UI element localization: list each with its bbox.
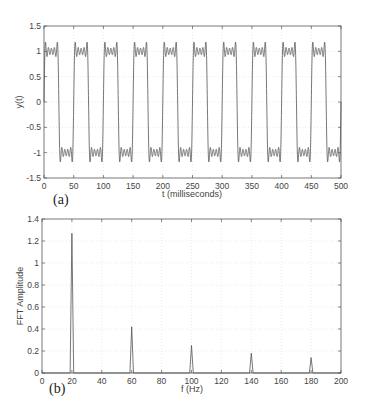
y-tick-label: 1: [36, 46, 41, 56]
x-tick-label: 160: [274, 376, 288, 386]
x-tick-label: 180: [304, 376, 318, 386]
x-tick-label: 400: [275, 181, 289, 191]
y-tick-label: 0.4: [27, 324, 39, 334]
y-tick-label: -0.5: [26, 122, 41, 132]
x-tick-label: 140: [244, 376, 258, 386]
chart-a-time-domain: 050100150200250300350400450500-1.5-1-0.5…: [14, 21, 348, 208]
chart-a-ylabel: y(t): [14, 96, 24, 109]
x-tick-label: 150: [126, 181, 140, 191]
x-tick-label: 60: [127, 376, 137, 386]
y-tick-label: 0.5: [29, 72, 41, 82]
chart-b-panel-label: (b): [49, 381, 66, 397]
y-tick-label: 0.8: [27, 280, 39, 290]
y-tick-label: 1: [34, 258, 39, 268]
y-tick-label: 0: [34, 368, 39, 378]
x-tick-label: 200: [334, 376, 348, 386]
x-tick-label: 100: [96, 181, 110, 191]
chart-b-ticks: 02040608010012014016018020000.20.40.60.8…: [27, 214, 348, 386]
x-tick-label: 120: [214, 376, 228, 386]
y-tick-label: 0.6: [27, 302, 39, 312]
chart-a-panel-label: (a): [53, 192, 69, 208]
chart-a-xlabel: t (milliseconds): [162, 189, 222, 199]
y-tick-label: 0: [36, 97, 41, 107]
chart-b-fft: 02040608010012014016018020000.20.40.60.8…: [15, 214, 348, 397]
x-tick-label: 350: [245, 181, 259, 191]
x-tick-label: 450: [304, 181, 318, 191]
y-tick-label: 1.2: [27, 236, 39, 246]
x-tick-label: 20: [67, 376, 77, 386]
x-tick-label: 500: [334, 181, 348, 191]
y-tick-label: -1: [33, 148, 41, 158]
x-tick-label: 0: [40, 376, 45, 386]
x-tick-label: 80: [157, 376, 167, 386]
x-tick-label: 40: [97, 376, 107, 386]
y-tick-label: -1.5: [26, 173, 41, 183]
y-tick-label: 0.2: [27, 346, 39, 356]
y-tick-label: 1.4: [27, 214, 39, 224]
x-tick-label: 0: [42, 181, 47, 191]
figure: 050100150200250300350400450500-1.5-1-0.5…: [0, 0, 368, 415]
x-tick-label: 50: [69, 181, 79, 191]
y-tick-label: 1.5: [29, 21, 41, 31]
chart-b-xlabel: f (Hz): [181, 384, 203, 394]
chart-b-ylabel: FFT Amplitude: [15, 267, 25, 325]
